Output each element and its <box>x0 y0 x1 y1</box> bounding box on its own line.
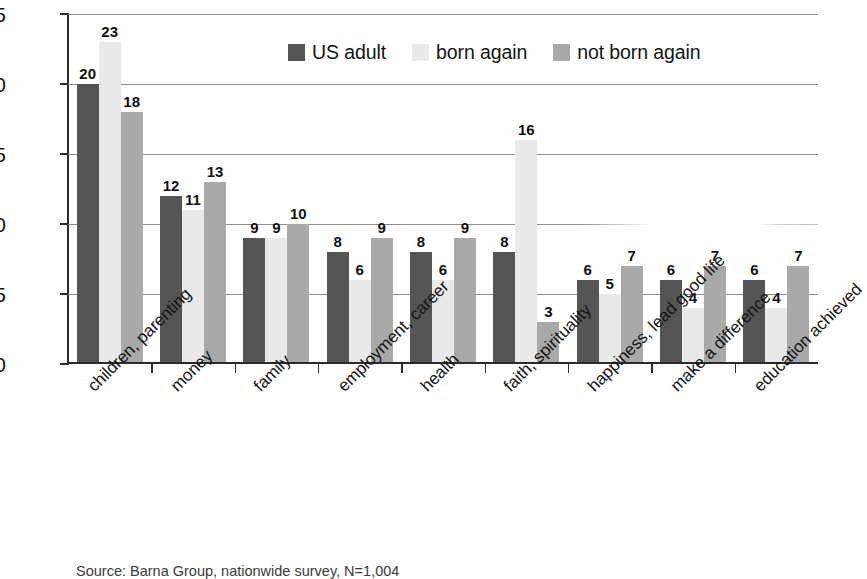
bar-group: 121113 <box>160 14 226 364</box>
bar-group: 8163 <box>493 14 559 364</box>
bar <box>537 322 559 364</box>
x-axis-group-tick <box>735 364 736 373</box>
x-axis-group-tick <box>318 364 319 373</box>
x-axis-group-tick <box>401 364 402 373</box>
bar <box>454 238 476 364</box>
x-axis-group-tick <box>235 364 236 373</box>
bar-value-label: 9 <box>362 219 402 236</box>
bar-value-label: 3 <box>528 303 568 320</box>
bar <box>121 112 143 364</box>
y-tick-label-15: 15 <box>0 143 6 167</box>
legend-label-us-adult: US adult <box>312 41 386 64</box>
bar-value-label: 16 <box>506 121 546 138</box>
x-axis-group-tick <box>568 364 569 373</box>
y-tick-label-0: 0 <box>0 353 6 377</box>
bar <box>243 238 265 364</box>
bar-value-label: 8 <box>318 233 358 250</box>
bar <box>287 224 309 364</box>
source-note: Source: Barna Group, nationwide survey, … <box>76 563 399 579</box>
y-tick-mark-5 <box>60 293 68 295</box>
legend-item-not-born-again: not born again <box>553 41 700 64</box>
bar-group: 657 <box>577 14 643 364</box>
bar <box>577 280 599 364</box>
bar <box>787 266 809 364</box>
bar-group: 869 <box>410 14 476 364</box>
legend-item-us-adult: US adult <box>288 41 386 64</box>
bar <box>371 238 393 364</box>
legend-swatch-born-again <box>412 44 429 61</box>
x-axis-group-tick <box>651 364 652 373</box>
bar-value-label: 18 <box>112 93 152 110</box>
bar <box>432 280 454 364</box>
y-tick-mark-20 <box>60 83 68 85</box>
bar-value-label: 7 <box>612 247 652 264</box>
y-tick-mark-10 <box>60 223 68 225</box>
y-tick-mark-0 <box>60 363 68 365</box>
bar <box>349 280 371 364</box>
y-tick-label-10: 10 <box>0 213 6 237</box>
bar <box>515 140 537 364</box>
bar-group: 9910 <box>243 14 309 364</box>
legend-label-not-born-again: not born again <box>577 41 700 64</box>
x-axis-baseline <box>68 362 818 364</box>
bar <box>682 308 704 364</box>
bar <box>160 196 182 364</box>
y-axis-labels: 25 20 15 10 5 0 <box>0 0 58 579</box>
bar <box>493 252 515 364</box>
bar <box>265 238 287 364</box>
y-tick-label-25: 25 <box>0 3 6 27</box>
y-tick-mark-25 <box>60 13 68 15</box>
bar <box>204 182 226 364</box>
x-axis-group-tick <box>151 364 152 373</box>
bar-value-label: 7 <box>695 247 735 264</box>
bar <box>621 266 643 364</box>
x-axis-group-tick <box>485 364 486 373</box>
bar-group: 869 <box>327 14 393 364</box>
y-tick-label-20: 20 <box>0 73 6 97</box>
bar <box>765 308 787 364</box>
bar-group: 647 <box>660 14 726 364</box>
bar-group: 647 <box>743 14 809 364</box>
bar-value-label: 7 <box>778 247 818 264</box>
bar-value-label: 8 <box>401 233 441 250</box>
bar <box>182 210 204 364</box>
legend-item-born-again: born again <box>412 41 527 64</box>
bar-value-label: 9 <box>445 219 485 236</box>
bar-value-label: 23 <box>90 23 130 40</box>
legend-label-born-again: born again <box>436 41 527 64</box>
y-tick-mark-15 <box>60 153 68 155</box>
bar <box>99 42 121 364</box>
bar <box>77 84 99 364</box>
bar-group: 202318 <box>77 14 143 364</box>
legend-swatch-not-born-again <box>553 44 570 61</box>
bar-value-label: 13 <box>195 163 235 180</box>
legend-swatch-us-adult <box>288 44 305 61</box>
bar <box>599 294 621 364</box>
chart-legend: US adult born again not born again <box>288 41 700 64</box>
bar <box>704 266 726 364</box>
y-tick-label-5: 5 <box>0 283 6 307</box>
plot-area: 20231812111399108698698163657647647 <box>68 14 818 364</box>
bar-value-label: 6 <box>734 261 774 278</box>
bar-value-label: 6 <box>651 261 691 278</box>
bar-value-label: 10 <box>278 205 318 222</box>
